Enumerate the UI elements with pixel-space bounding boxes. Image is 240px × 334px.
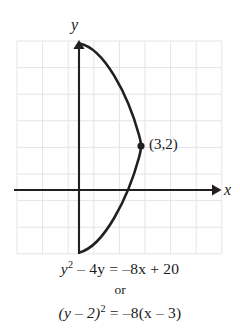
x-axis-arrowhead xyxy=(212,184,222,195)
equation-3-rest: = –8(x – 3) xyxy=(106,304,182,321)
point-label-3-2: (3,2) xyxy=(149,136,178,153)
equation-1-rest: – 4y = –8x + 20 xyxy=(73,260,179,277)
x-axis-label: x xyxy=(224,181,231,199)
equation-1-lhs-base: y xyxy=(61,260,68,277)
x-axis xyxy=(14,184,222,195)
equation-line-1: y2 – 4y = –8x + 20 xyxy=(0,259,240,278)
equation-connector-or: or xyxy=(0,282,240,298)
y-axis-label: y xyxy=(71,16,78,34)
point-marker-3-2 xyxy=(137,142,144,149)
equation-line-3: (y – 2)2 = –8(x – 3) xyxy=(0,303,240,322)
parabola-curve xyxy=(80,44,142,253)
equation-3-lhs-base: (y – 2) xyxy=(59,304,101,321)
grid-lines xyxy=(17,41,222,254)
